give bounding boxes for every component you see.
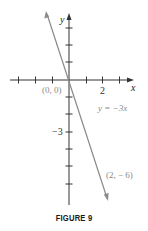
x-axis (10, 77, 134, 84)
x-tick-label-2: 2 (100, 86, 105, 96)
x-axis-label: x (131, 83, 135, 93)
figure-caption: FIGURE 9 (11, 213, 137, 223)
equation-annotation: y = −3x (98, 104, 127, 113)
y-axis-label: y (60, 15, 64, 25)
point-annotation: (2, − 6) (106, 171, 133, 180)
origin-annotation: (0, 0) (42, 86, 62, 95)
y-axis (66, 13, 73, 205)
chart-canvas (0, 0, 148, 231)
y-tick-label-neg3: −3 (52, 127, 63, 137)
